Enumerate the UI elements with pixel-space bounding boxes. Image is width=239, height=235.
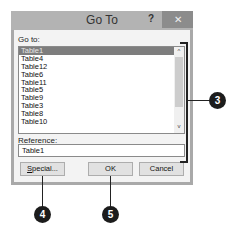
- help-button[interactable]: ?: [148, 13, 154, 24]
- callout-bracket-bottom: [180, 161, 188, 163]
- close-button[interactable]: ✕: [162, 11, 193, 28]
- go-to-dialog: Go To ? ✕ Go to: Table1 Table4 Table12 T…: [11, 11, 193, 185]
- scroll-up-icon[interactable]: ^: [174, 48, 184, 54]
- reference-input[interactable]: Table1: [18, 144, 185, 157]
- scroll-thumb[interactable]: [175, 57, 183, 107]
- callout-3-leader: [188, 100, 210, 101]
- callout-3: 3: [209, 92, 226, 109]
- ok-button[interactable]: OK: [88, 162, 133, 176]
- goto-listbox[interactable]: Table1 Table4 Table12 Table6 Table11 Tab…: [18, 46, 185, 134]
- callout-4: 4: [34, 206, 51, 223]
- callout-bracket-top: [180, 42, 188, 44]
- special-label: pecial...: [32, 164, 58, 173]
- callout-5: 5: [102, 206, 119, 223]
- list-scrollbar[interactable]: ^ v: [174, 47, 184, 133]
- title-bar[interactable]: Go To ? ✕: [11, 11, 193, 30]
- list-item[interactable]: Table10: [19, 118, 175, 126]
- callout-bracket-line: [186, 42, 188, 163]
- scroll-down-icon[interactable]: v: [174, 123, 184, 129]
- goto-label: Go to:: [18, 35, 40, 44]
- close-icon: ✕: [174, 14, 182, 25]
- dialog-body: Go to: Table1 Table4 Table12 Table6 Tabl…: [14, 30, 190, 182]
- cancel-button[interactable]: Cancel: [139, 162, 184, 176]
- special-button[interactable]: Special...: [20, 162, 65, 176]
